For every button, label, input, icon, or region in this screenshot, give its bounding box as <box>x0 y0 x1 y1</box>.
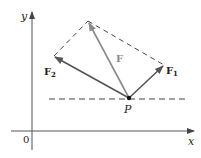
force-F1-label: F1 <box>166 66 178 77</box>
force-F2-subscript: 2 <box>51 70 56 79</box>
x-axis-label: x <box>188 136 194 147</box>
force-vector-diagram: y x 0 P F F1 F2 <box>0 0 201 158</box>
point-P-label: P <box>124 104 131 115</box>
diagram-svg <box>0 0 201 158</box>
point-P-dot <box>127 96 131 100</box>
axes <box>11 12 194 150</box>
parallelogram-dashed-sides <box>54 21 164 65</box>
force-F1-subscript: 1 <box>173 69 178 78</box>
resultant-F-label: F <box>116 54 123 64</box>
y-axis-label: y <box>21 11 27 22</box>
force-F2-label: F2 <box>44 67 56 78</box>
vector-F1-arrow <box>129 66 163 98</box>
origin-label: 0 <box>23 135 29 145</box>
